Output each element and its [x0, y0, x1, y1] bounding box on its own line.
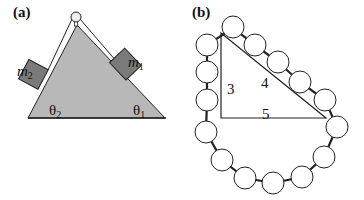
bead: [222, 16, 244, 38]
bead: [262, 172, 284, 194]
side-label-4: 4: [261, 75, 269, 91]
pulley-icon: [71, 12, 81, 22]
panel-a-label: (a): [13, 4, 31, 21]
bead: [211, 149, 233, 171]
bead: [196, 89, 218, 111]
bead: [244, 34, 266, 56]
bead: [267, 51, 289, 73]
bead: [196, 61, 218, 83]
bead: [196, 34, 218, 56]
bead: [313, 146, 335, 168]
panel-b-label: (b): [192, 4, 210, 21]
panel-a: (a) m2 m1 θ2 θ1: [13, 4, 166, 120]
bead: [234, 167, 256, 189]
mass1-label: m1: [128, 54, 144, 72]
bead: [291, 166, 313, 188]
bead: [314, 89, 336, 111]
bead: [289, 71, 311, 93]
side-label-3: 3: [227, 81, 235, 97]
bead: [195, 121, 217, 143]
side-label-5: 5: [262, 106, 270, 122]
bead: [326, 116, 348, 138]
panel-b: (b) 3 4 5: [192, 4, 348, 194]
beads: [195, 16, 348, 194]
diagram-canvas: (a) m2 m1 θ2 θ1 (b): [0, 0, 364, 200]
right-triangle: [221, 33, 326, 118]
